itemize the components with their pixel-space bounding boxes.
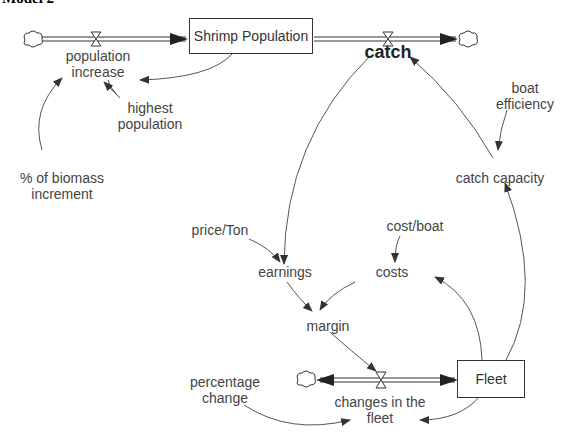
label-line: efficiency (490, 96, 560, 112)
label-line: population (110, 116, 190, 132)
flow-catch[interactable]: catch (348, 44, 428, 60)
label-line: population (58, 48, 138, 64)
flow-changes-in-fleet[interactable]: changes in the fleet (325, 394, 435, 426)
flow-population-increase[interactable]: population increase (58, 48, 138, 80)
label-line: changes in the (325, 394, 435, 410)
stock-fleet[interactable]: Fleet (457, 360, 525, 398)
var-earnings[interactable]: earnings (250, 264, 320, 280)
label-line: increase (58, 64, 138, 80)
cloud-fleet-icon (297, 371, 315, 387)
label-line: fleet (325, 410, 435, 426)
var-biomass-increment[interactable]: % of biomass increment (12, 170, 112, 202)
stock-flow-diagram: Model 2 (0, 0, 567, 448)
label-line: highest (110, 100, 190, 116)
label-line: change (185, 390, 265, 406)
var-price-ton[interactable]: price/Ton (180, 222, 260, 238)
var-highest-population[interactable]: highest population (110, 100, 190, 132)
label-line: boat (490, 80, 560, 96)
var-margin[interactable]: margin (298, 318, 358, 334)
var-cost-boat[interactable]: cost/boat (380, 218, 450, 234)
var-costs[interactable]: costs (362, 264, 422, 280)
label-line: % of biomass (12, 170, 112, 186)
label-line: increment (12, 186, 112, 202)
label-line: percentage (185, 374, 265, 390)
var-boat-efficiency[interactable]: boat efficiency (490, 80, 560, 112)
cloud-source-icon (24, 31, 42, 47)
cloud-sink-icon (459, 31, 477, 47)
stock-shrimp-population[interactable]: Shrimp Population (189, 18, 313, 54)
var-percentage-change[interactable]: percentage change (185, 374, 265, 406)
var-catch-capacity[interactable]: catch capacity (450, 170, 550, 186)
